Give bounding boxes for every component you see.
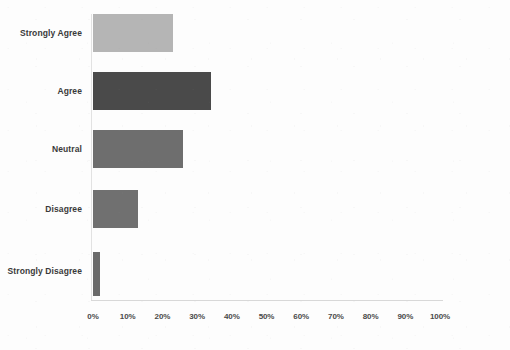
bar-row: Strongly Disagree <box>0 252 510 290</box>
bar-strongly-agree <box>93 14 173 52</box>
bar-neutral <box>93 130 183 168</box>
bar-strongly-disagree <box>93 252 100 296</box>
bar-disagree <box>93 190 138 228</box>
bar-row: Neutral <box>0 130 510 168</box>
bar-row: Strongly Agree <box>0 14 510 52</box>
bar-row: Agree <box>0 72 510 110</box>
category-label-strongly-disagree: Strongly Disagree <box>0 266 82 277</box>
category-label-strongly-agree: Strongly Agree <box>0 28 82 39</box>
x-tick-label: 100% <box>420 312 460 321</box>
x-axis-baseline <box>91 300 443 301</box>
category-label-disagree: Disagree <box>0 204 82 215</box>
bar-row: Disagree <box>0 190 510 228</box>
bar-chart: Strongly Agree Agree Neutral Disagree St… <box>0 0 510 350</box>
category-label-neutral: Neutral <box>0 144 82 155</box>
scan-noise-overlay <box>0 0 510 350</box>
category-label-agree: Agree <box>0 86 82 97</box>
bar-agree <box>93 72 211 110</box>
